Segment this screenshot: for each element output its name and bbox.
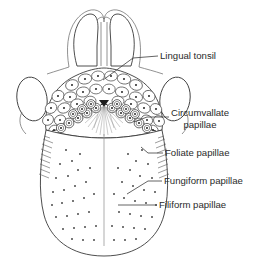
- label-text-fungiform-papillae: Fungiform papillae: [164, 175, 243, 186]
- label-text-foliate-papillae: Foliate papillae: [165, 147, 230, 158]
- label-text-circumvallate-papillae-line2: papillae: [183, 119, 216, 130]
- epiglottis-lobes: [47, 10, 163, 74]
- diagram-canvas: Lingual tonsil Circumvallate papillae Fo…: [0, 0, 258, 268]
- label-text-lingual-tonsil: Lingual tonsil: [160, 50, 216, 61]
- label-text-circumvallate-papillae-line1: Circumvallate: [171, 107, 229, 118]
- tongue-anatomy-figure: Lingual tonsil Circumvallate papillae Fo…: [0, 0, 258, 268]
- label-text-filiform-papillae: Filiform papillae: [159, 199, 226, 210]
